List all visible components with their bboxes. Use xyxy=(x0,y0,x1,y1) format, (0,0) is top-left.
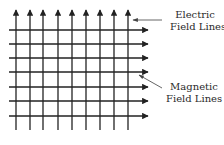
electric-label-line1: Electric xyxy=(170,9,220,21)
magnetic-field-lines-label: Magnetic Field Lines xyxy=(166,81,222,105)
magnetic-label-leader-arrow xyxy=(139,75,162,88)
electric-field-lines-label: Electric Field Lines xyxy=(170,9,220,33)
electric-field-lines xyxy=(16,10,128,130)
magnetic-label-line2: Field Lines xyxy=(166,93,222,105)
electric-label-line2: Field Lines xyxy=(170,21,220,33)
magnetic-label-line1: Magnetic xyxy=(166,81,222,93)
